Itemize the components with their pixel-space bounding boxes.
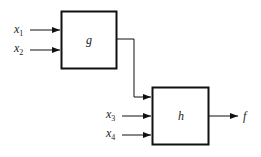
output-f-label: f <box>243 109 248 123</box>
input-x4-label: x4 <box>105 126 115 142</box>
input-x2-label: x2 <box>13 41 23 57</box>
block-h-label: h <box>178 109 184 123</box>
connector-g-to-h <box>117 39 151 97</box>
input-x1-label: x1 <box>13 22 23 38</box>
input-x3-label: x3 <box>105 107 115 123</box>
block-diagram: g x1 x2 h x3 x4 f <box>0 0 261 157</box>
block-g-label: g <box>86 33 92 47</box>
